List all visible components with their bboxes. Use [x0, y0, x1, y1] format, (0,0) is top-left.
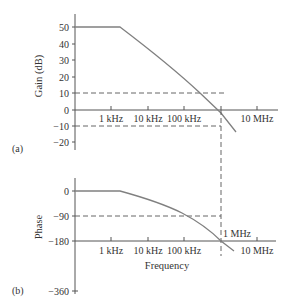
gain-x-ticks — [111, 106, 257, 110]
phase-x-label-10khz: 10 kHz — [133, 245, 163, 256]
gain-y-label-30: 30 — [59, 55, 69, 66]
gain-axis-title: Gain (dB) — [33, 54, 45, 97]
gain-y-label-0: 0 — [64, 105, 69, 116]
panel-label-a: (a) — [12, 143, 23, 155]
gain-x-label-10mhz: 10 MHz — [240, 113, 274, 124]
gain-y-label-minus20: −20 — [53, 137, 69, 148]
phase-x-label-100khz: 100 kHz — [167, 245, 202, 256]
phase-axis-title: Phase — [33, 214, 44, 239]
one-mhz-label: 1 MHz — [223, 228, 252, 239]
gain-y-label-40: 40 — [59, 39, 69, 50]
phase-y-label-minus90: −90 — [53, 211, 69, 222]
phase-y-label-minus360: −360 — [48, 286, 69, 297]
gain-panel: 50 40 30 20 10 0 −10 −20 Gain (dB) 1 kHz… — [12, 14, 278, 155]
gain-y-label-10: 10 — [59, 88, 69, 99]
gain-y-label-50: 50 — [59, 22, 69, 33]
panel-label-b: (b) — [12, 285, 24, 297]
gain-x-label-10khz: 10 kHz — [133, 113, 163, 124]
gain-y-label-20: 20 — [59, 72, 69, 83]
phase-curve — [75, 191, 234, 251]
phase-y-label-0: 0 — [64, 186, 69, 197]
gain-x-label-100khz: 100 kHz — [167, 113, 202, 124]
phase-x-label-10mhz: 10 MHz — [240, 245, 274, 256]
phase-y-label-minus180: −180 — [48, 236, 69, 247]
frequency-axis-title: Frequency — [145, 260, 190, 271]
phase-panel: 0 −90 −180 −360 Phase 1 kHz 10 kHz 100 k… — [12, 178, 276, 297]
gain-y-label-minus10: −10 — [53, 121, 69, 132]
phase-x-label-1khz: 1 kHz — [99, 245, 124, 256]
gain-x-label-1khz: 1 kHz — [99, 113, 124, 124]
bode-plot-figure: 50 40 30 20 10 0 −10 −20 Gain (dB) 1 kHz… — [0, 0, 289, 307]
